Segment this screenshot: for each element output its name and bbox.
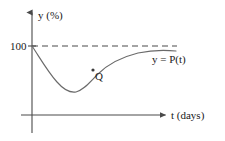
curve-equation-label: y = P(t) — [152, 54, 186, 65]
t-axis-label: t (days) — [171, 110, 204, 121]
y-axis-label: y (%) — [38, 10, 63, 21]
y-tick-label-100: 100 — [10, 41, 27, 52]
graph-figure: y (%) 100 y = P(t) Q t (days) — [0, 0, 225, 141]
point-q-label: Q — [95, 71, 103, 82]
